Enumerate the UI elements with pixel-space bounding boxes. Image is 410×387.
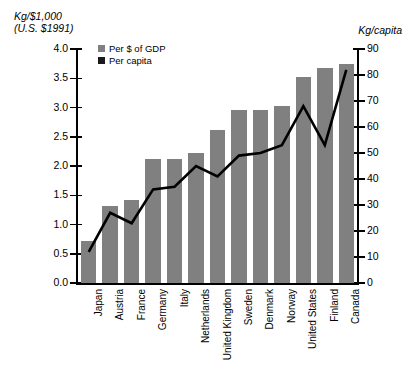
legend-swatch-icon	[98, 45, 105, 52]
x-axis-label-text: United Kingdom	[222, 289, 233, 360]
right-tick-label: 80	[367, 69, 401, 80]
x-axis-label: Netherlands	[200, 289, 211, 343]
left-axis-title-line2: (U.S. $1991)	[14, 22, 74, 34]
x-axis-label: Italy	[179, 289, 190, 307]
x-axis-label: Austria	[114, 289, 125, 320]
left-axis-title-line1: Kg/$1,000	[14, 10, 74, 22]
right-tick-label: 90	[367, 43, 401, 54]
x-axis-label-text: Germany	[157, 289, 168, 330]
left-tick-label: 2.5	[34, 131, 68, 142]
legend-item: Per $ of GDP	[98, 43, 166, 54]
left-tick-label: 2.0	[34, 160, 68, 171]
legend-label: Per $ of GDP	[109, 44, 166, 54]
left-tick-label: 1.5	[34, 189, 68, 200]
x-axis-label: France	[136, 289, 147, 320]
legend-item: Per capita	[98, 55, 166, 66]
x-axis-label: Denmark	[264, 289, 275, 330]
right-tick-label: 30	[367, 199, 401, 210]
per-capita-polyline	[89, 70, 347, 252]
right-tick-label: 70	[367, 95, 401, 106]
x-axis-label-text: Italy	[179, 289, 190, 307]
x-axis-label: Finland	[329, 289, 340, 322]
left-axis-title: Kg/$1,000 (U.S. $1991)	[14, 10, 74, 34]
legend-label: Per capita	[109, 56, 152, 66]
x-axis-line	[76, 283, 359, 285]
x-axis-label-text: Austria	[114, 289, 125, 320]
legend-swatch-icon	[98, 57, 105, 64]
x-axis-label: United Kingdom	[222, 289, 233, 360]
chart-legend: Per $ of GDPPer capita	[98, 43, 166, 67]
right-axis-line	[357, 49, 359, 285]
x-axis-label-text: France	[136, 289, 147, 320]
x-axis-label-text: Norway	[286, 289, 297, 323]
x-axis-label: Japan	[93, 289, 104, 316]
right-axis-title: Kg/capita	[358, 24, 402, 36]
x-axis-label-text: Finland	[329, 289, 340, 322]
left-tick-label: 0.0	[34, 277, 68, 288]
right-tick-label: 20	[367, 225, 401, 236]
x-axis-label: United States	[307, 289, 318, 349]
x-axis-label-text: Sweden	[243, 289, 254, 325]
left-tick-label: 0.5	[34, 248, 68, 259]
x-axis-label-text: Netherlands	[200, 289, 211, 343]
x-axis-label: Canada	[350, 289, 361, 324]
x-axis-label-text: United States	[307, 289, 318, 349]
x-axis-label-text: Japan	[93, 289, 104, 316]
right-tick-label: 50	[367, 147, 401, 158]
left-tick-label: 3.0	[34, 102, 68, 113]
x-axis-label: Sweden	[243, 289, 254, 325]
right-tick-label: 60	[367, 121, 401, 132]
x-axis-label-text: Canada	[350, 289, 361, 324]
right-tick-label: 10	[367, 251, 401, 262]
x-axis-label: Germany	[157, 289, 168, 330]
left-tick-label: 3.5	[34, 72, 68, 83]
right-tick-label: 40	[367, 173, 401, 184]
x-axis-label: Norway	[286, 289, 297, 323]
chart-container: Kg/$1,000 (U.S. $1991) Kg/capita 4.03.53…	[0, 0, 410, 387]
left-tick-label: 4.0	[34, 43, 68, 54]
x-axis-label-text: Denmark	[264, 289, 275, 330]
right-tick-label: 0	[367, 277, 401, 288]
left-tick-label: 1.0	[34, 219, 68, 230]
per-capita-line-series	[78, 49, 357, 283]
